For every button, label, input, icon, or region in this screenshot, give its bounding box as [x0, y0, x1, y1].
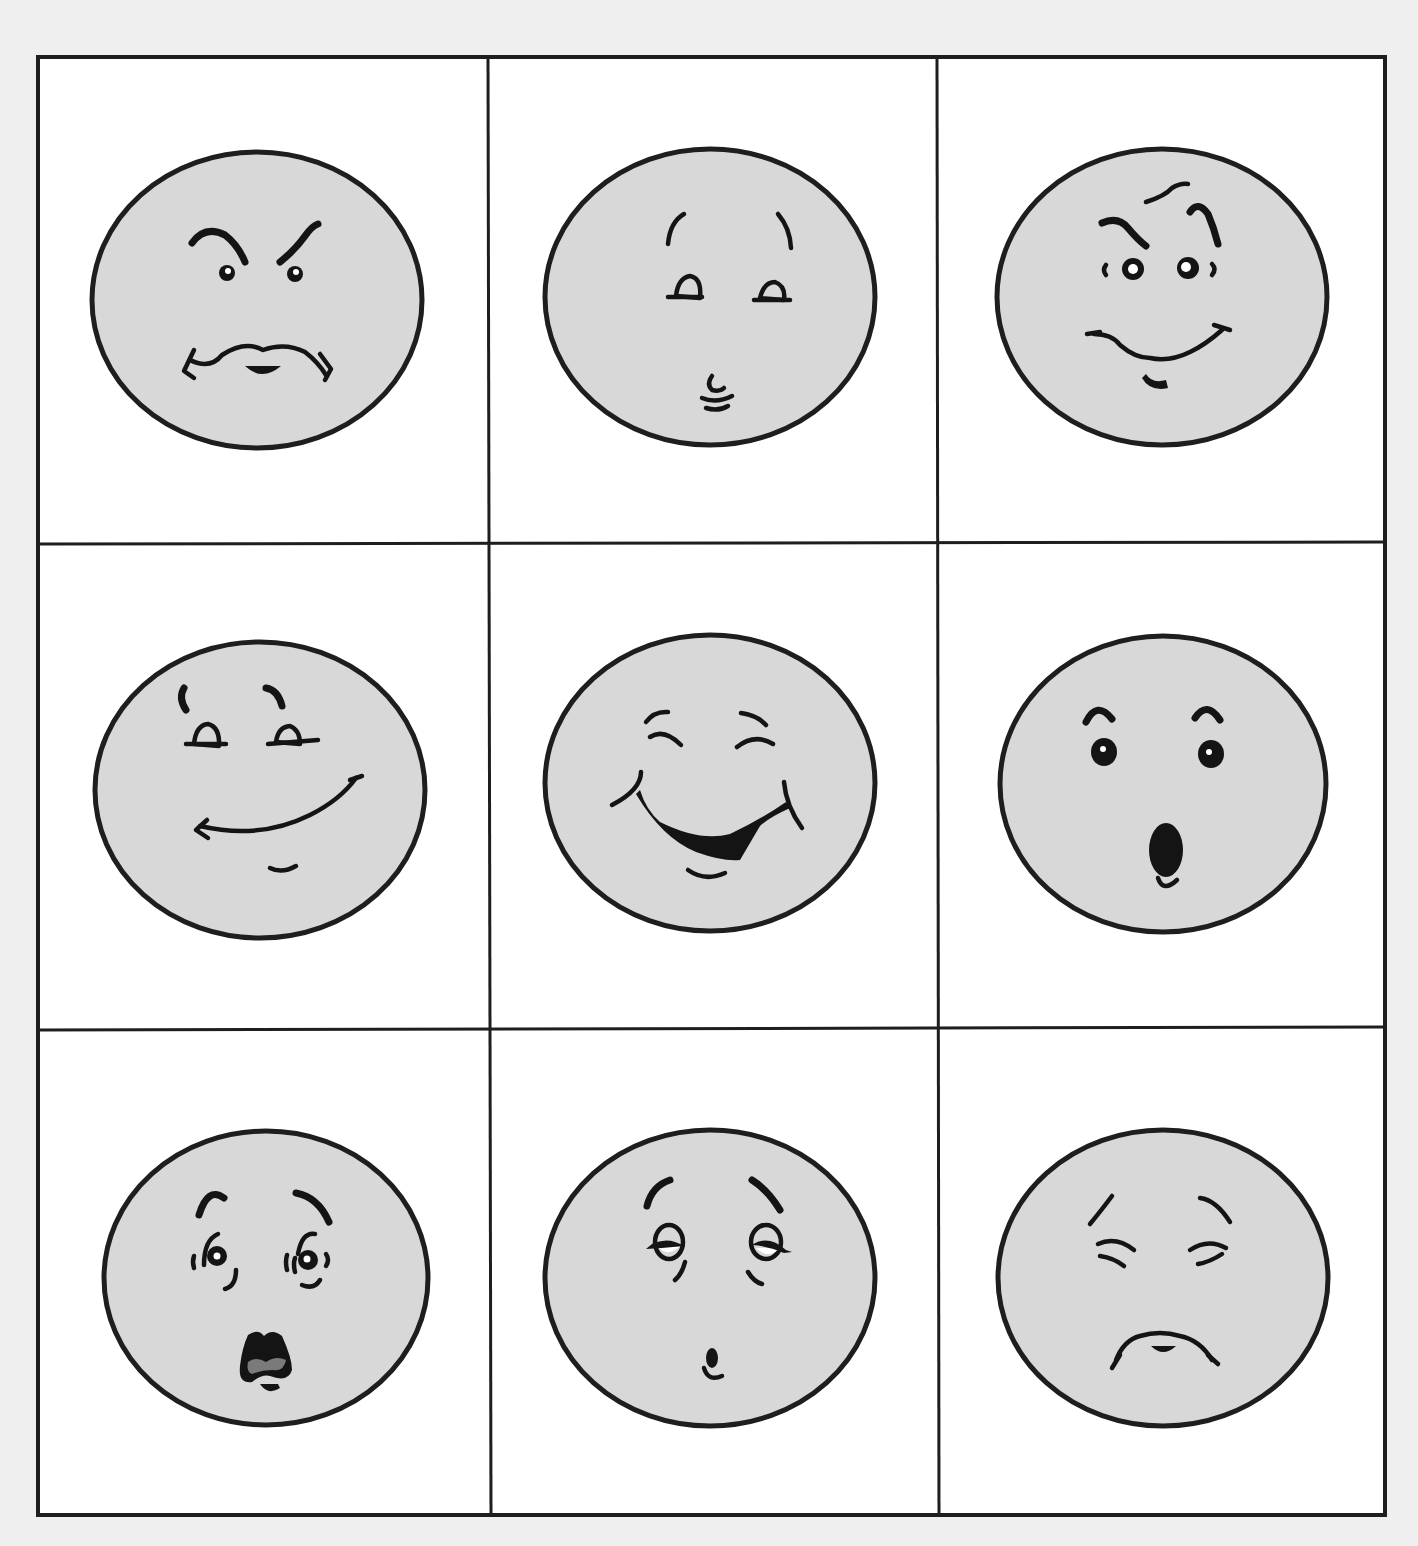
face-unsure [545, 149, 875, 445]
grid-line-v2 [937, 57, 939, 1515]
face-shocked [104, 1131, 428, 1425]
face-mischievous [997, 149, 1327, 445]
face-surprised [1000, 636, 1326, 932]
grid-line-h1 [38, 542, 1385, 544]
emotion-faces-worksheet [0, 0, 1418, 1546]
face-angry [92, 152, 422, 448]
face-content [95, 642, 425, 938]
face-tired [545, 1130, 875, 1426]
face-laughing [545, 635, 875, 931]
face-sad [998, 1130, 1328, 1426]
